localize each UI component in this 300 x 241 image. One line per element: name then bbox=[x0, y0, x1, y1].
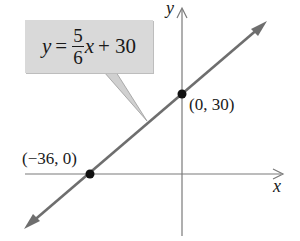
equation-lhs: y bbox=[42, 34, 51, 59]
equation-callout: y = 5 6 x + 30 bbox=[25, 20, 153, 73]
y-axis-label: y bbox=[166, 0, 174, 19]
equation-equals: = bbox=[55, 34, 67, 59]
x-axis-label: x bbox=[273, 176, 281, 197]
equation: y = 5 6 x + 30 bbox=[42, 26, 136, 67]
point-label-x-intercept: (−36, 0) bbox=[22, 149, 77, 169]
equation-rest: + 30 bbox=[98, 34, 136, 59]
fraction-denominator: 6 bbox=[73, 47, 83, 67]
callout-pointer bbox=[104, 72, 147, 121]
point-x-intercept bbox=[86, 170, 95, 179]
point-label-y-intercept: (0, 30) bbox=[189, 95, 234, 115]
point-y-intercept bbox=[178, 90, 187, 99]
equation-fraction: 5 6 bbox=[72, 26, 84, 67]
fraction-numerator: 5 bbox=[72, 26, 84, 47]
graph-figure: y = 5 6 x + 30 y x (0, 30) (−36, 0) bbox=[0, 0, 300, 241]
equation-variable: x bbox=[85, 34, 94, 59]
